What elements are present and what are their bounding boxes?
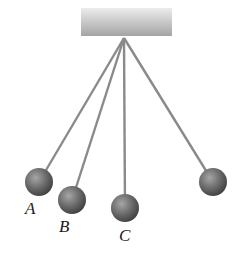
label-a: A [25, 199, 35, 219]
ball-c [111, 194, 139, 222]
diagram-canvas [0, 0, 242, 258]
ball-d [199, 168, 227, 196]
label-b: B [59, 217, 69, 237]
support-block [81, 8, 172, 36]
label-c: C [119, 226, 130, 246]
ball-a [25, 168, 53, 196]
strings [39, 38, 213, 208]
string-c [124, 38, 125, 208]
pendulum-diagram: A B C [0, 0, 242, 258]
ball-b [58, 186, 86, 214]
string-b [72, 38, 124, 200]
string-d [124, 38, 213, 182]
string-a [39, 38, 124, 182]
